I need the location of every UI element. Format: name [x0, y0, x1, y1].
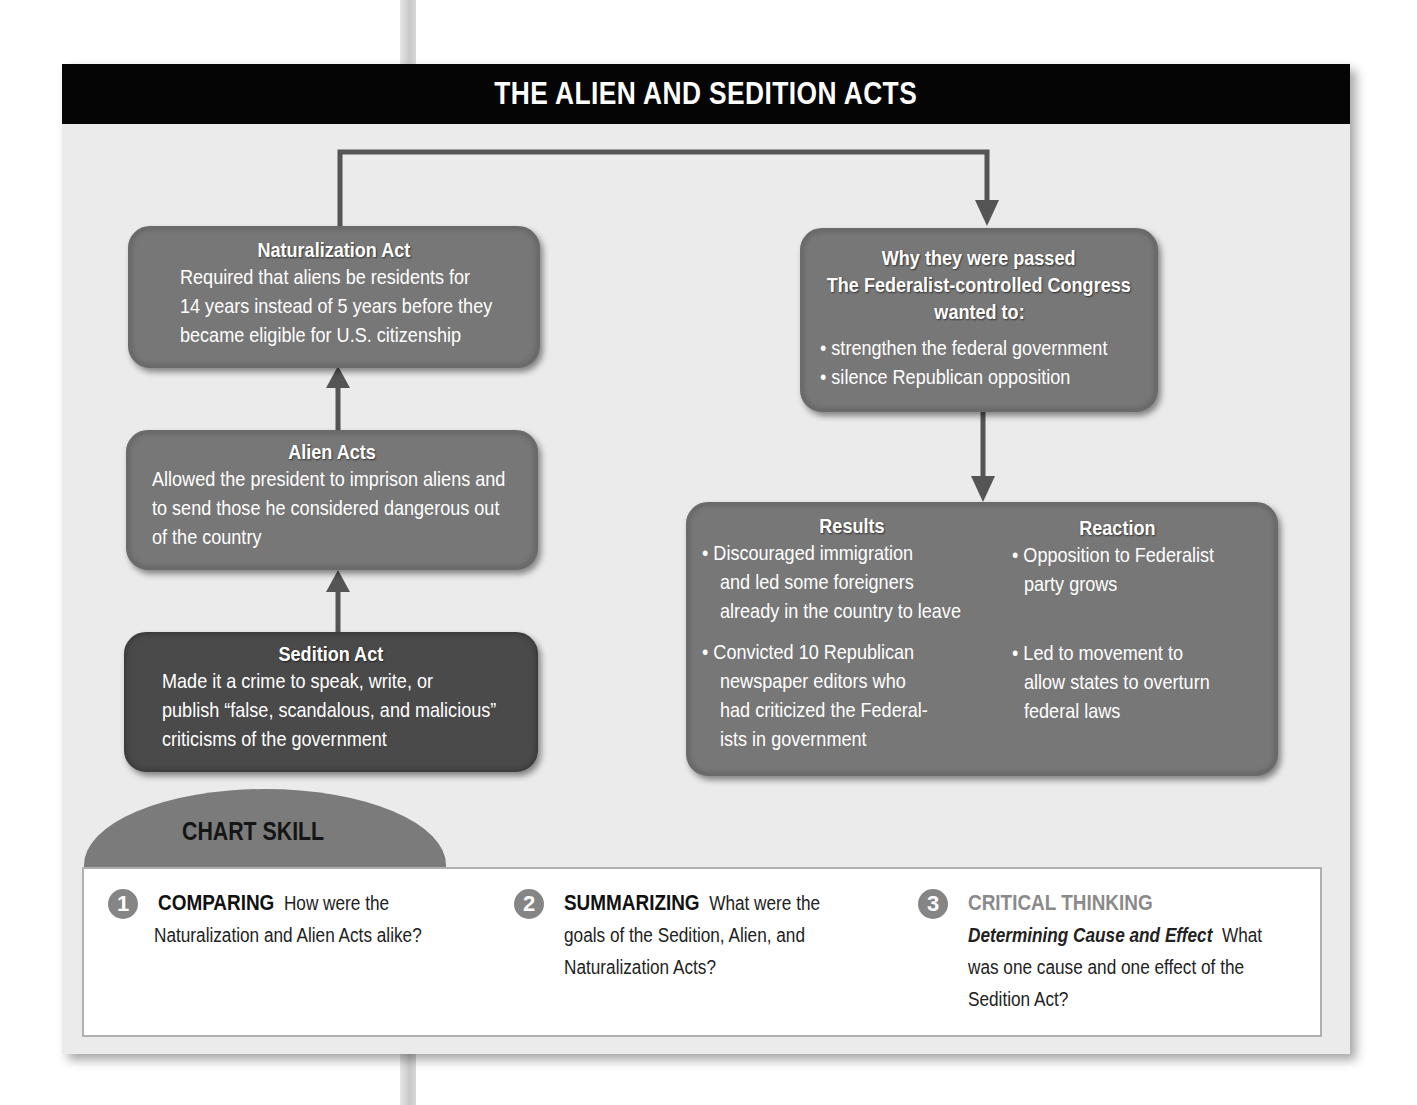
arrow-down-icon	[971, 476, 995, 502]
results-bullet-line: • Discouraged immigration	[702, 538, 913, 567]
question-keyword: SUMMARIZING	[564, 890, 700, 915]
question-keyword: COMPARING	[158, 890, 274, 915]
alien-acts-heading: Alien Acts	[288, 440, 376, 464]
results-column: Results • Discouraged immigration and le…	[702, 514, 992, 753]
arrow-up-icon	[326, 570, 350, 592]
why-passed-bullet: • silence Republican opposition	[820, 362, 1070, 391]
diagram-title-bar: THE ALIEN AND SEDITION ACTS	[62, 64, 1350, 124]
results-bullet-line: ists in government	[720, 724, 867, 753]
alien-acts-line: Allowed the president to imprison aliens…	[152, 464, 505, 493]
results-heading: Results	[819, 514, 884, 538]
sedition-act-line: publish “false, scandalous, and maliciou…	[162, 695, 496, 724]
chart-skill-label: CHART SKILL	[182, 816, 355, 847]
diagram-panel: THE ALIEN AND SEDITION ACTS Naturalizati…	[62, 64, 1350, 1054]
arrow-down-icon	[975, 200, 999, 226]
naturalization-act-box: Naturalization Act Required that aliens …	[128, 226, 540, 368]
results-bullet-line: had criticized the Federal-	[720, 695, 928, 724]
reaction-bullet-line: allow states to overturn	[1024, 667, 1210, 696]
results-bullet-line: • Convicted 10 Republican	[702, 637, 914, 666]
question-text: Naturalization and Alien Acts alike?	[154, 919, 422, 951]
why-passed-bullet: • strengthen the federal government	[820, 333, 1107, 362]
reaction-heading: Reaction	[1079, 516, 1155, 540]
naturalization-act-line: Required that aliens be residents for	[180, 262, 470, 291]
sedition-act-box: Sedition Act Made it a crime to speak, w…	[124, 632, 538, 772]
reaction-bullet-line: party grows	[1024, 569, 1117, 598]
number-2-icon: 2	[514, 889, 544, 919]
question-text: goals of the Sedition, Alien, and	[564, 919, 805, 951]
number-1-icon: 1	[108, 889, 138, 919]
naturalization-act-heading: Naturalization Act	[258, 238, 411, 262]
results-bullet-line: newspaper editors who	[720, 666, 906, 695]
why-passed-heading: The Federalist-controlled Congress	[827, 271, 1131, 298]
results-reaction-box: Results • Discouraged immigration and le…	[686, 502, 1278, 776]
reaction-column: Reaction • Opposition to Federalist part…	[1012, 516, 1262, 725]
results-bullet-line: already in the country to leave	[720, 596, 961, 625]
why-passed-box: Why they were passed The Federalist-cont…	[800, 228, 1158, 412]
question-text: was one cause and one effect of the	[968, 951, 1244, 983]
naturalization-act-line: became eligible for U.S. citizenship	[180, 320, 461, 349]
question-keyword: CRITICAL THINKING	[968, 887, 1153, 919]
question-subtitle: Determining Cause and Effect	[968, 924, 1212, 946]
sedition-act-line: criticisms of the government	[162, 724, 387, 753]
question-text: What were the	[709, 892, 820, 914]
question-text: Naturalization Acts?	[564, 951, 716, 983]
why-passed-heading: Why they were passed	[882, 244, 1076, 271]
reaction-bullet-line: • Opposition to Federalist	[1012, 540, 1214, 569]
question-text: Sedition Act?	[968, 983, 1068, 1015]
question-text: What	[1222, 924, 1262, 946]
question-text: How were the	[284, 892, 389, 914]
why-passed-heading: wanted to:	[934, 298, 1024, 325]
reaction-bullet-line: • Led to movement to	[1012, 638, 1183, 667]
alien-acts-line: of the country	[152, 522, 261, 551]
diagram-title: THE ALIEN AND SEDITION ACTS	[495, 76, 918, 112]
alien-acts-line: to send those he considered dangerous ou…	[152, 493, 499, 522]
alien-acts-box: Alien Acts Allowed the president to impr…	[126, 430, 538, 570]
chart-skill-questions: 1 COMPARING How were the Naturalization …	[82, 867, 1322, 1037]
sedition-act-heading: Sedition Act	[279, 642, 384, 666]
sedition-act-line: Made it a crime to speak, write, or	[162, 666, 433, 695]
reaction-bullet-line: federal laws	[1024, 696, 1120, 725]
results-bullet-line: and led some foreigners	[720, 567, 914, 596]
arrow-up-icon	[326, 366, 350, 388]
number-3-icon: 3	[918, 889, 948, 919]
naturalization-act-line: 14 years instead of 5 years before they	[180, 291, 492, 320]
